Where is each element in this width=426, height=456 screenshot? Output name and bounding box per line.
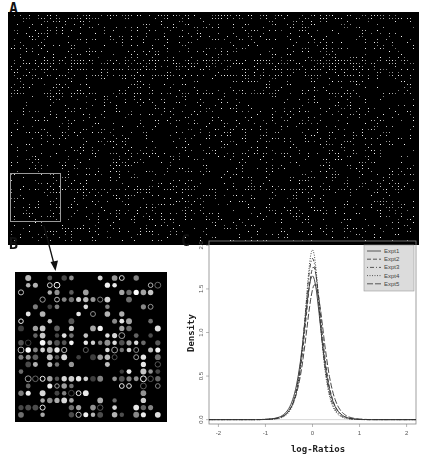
curve-expt5: [209, 285, 416, 420]
curve-expt1: [209, 276, 416, 420]
svg-text:0.5: 0.5: [198, 371, 204, 380]
density-chart: 0.00.51.01.52.0 -2-1012 log-Ratios Densi…: [170, 225, 426, 456]
x-axis: -2-1012: [216, 424, 409, 436]
legend-item: Expt5: [384, 281, 400, 287]
svg-text:1.0: 1.0: [198, 328, 204, 337]
x-axis-label: log-Ratios: [291, 444, 345, 454]
svg-text:1: 1: [358, 430, 362, 436]
svg-text:1.5: 1.5: [198, 284, 204, 293]
svg-text:2: 2: [405, 430, 409, 436]
legend-item: Expt4: [384, 273, 400, 279]
arrow-icon: [0, 0, 120, 280]
svg-text:2.0: 2.0: [198, 241, 204, 250]
y-axis-label: Density: [186, 313, 196, 352]
legend-item: Expt3: [384, 264, 400, 270]
panel-b-enlarged-spots: [15, 272, 167, 422]
legend: Expt1Expt2Expt3Expt4Expt5: [364, 245, 414, 291]
legend-item: Expt1: [384, 248, 400, 254]
svg-text:-1: -1: [263, 430, 269, 436]
svg-text:0: 0: [311, 430, 315, 436]
svg-text:0.0: 0.0: [198, 415, 204, 424]
y-axis: 0.00.51.01.52.0: [198, 241, 209, 424]
legend-item: Expt2: [384, 256, 400, 262]
svg-text:-2: -2: [216, 430, 222, 436]
